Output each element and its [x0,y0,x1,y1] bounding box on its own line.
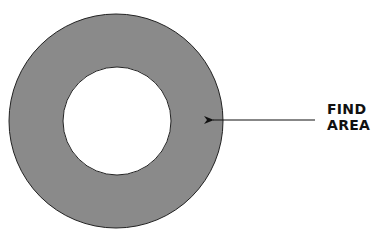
annulus-diagram [0,0,379,238]
label-line-2: AREA [327,117,370,133]
find-area-label: FIND AREA [327,101,370,133]
label-line-1: FIND [327,101,370,117]
inner-circle [63,67,171,175]
